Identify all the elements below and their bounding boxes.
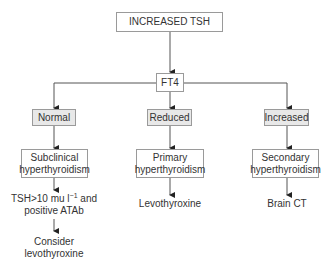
final-consider-levothyroxine: Consider levothyroxine xyxy=(0,236,108,260)
action-label: Brain CT xyxy=(267,198,306,209)
result-label-increased: Increased xyxy=(265,112,309,124)
diagnosis-line2: hyperthyroidism xyxy=(250,164,321,176)
diagnosis-line1: Secondary xyxy=(262,152,310,164)
diagnosis-line2: hyperthyroidism xyxy=(19,164,90,176)
action-tsh-criteria: TSH>10 mu l−1 and positive ATAb xyxy=(0,193,108,217)
final-line2: levothyroxine xyxy=(0,248,108,260)
result-box-reduced: Reduced xyxy=(147,109,192,126)
result-label-normal: Normal xyxy=(38,112,70,124)
connector-lines xyxy=(0,0,332,270)
ft4-label: FT4 xyxy=(161,77,179,89)
action-line1: TSH>10 mu l xyxy=(11,193,70,204)
action-brain-ct: Brain CT xyxy=(237,198,332,210)
action-line1-suffix: and xyxy=(78,193,97,204)
action-line2: positive ATAb xyxy=(0,205,108,217)
final-line1: Consider xyxy=(0,236,108,248)
action-superscript: −1 xyxy=(70,192,78,199)
root-label: INCREASED TSH xyxy=(129,16,210,28)
ft4-test-box: FT4 xyxy=(156,73,184,92)
diagnosis-box-secondary: Secondary hyperthyroidism xyxy=(252,149,319,178)
diagnosis-line1: Subclinical xyxy=(31,152,79,164)
result-box-increased: Increased xyxy=(264,109,309,126)
diagnosis-box-primary: Primary hyperthyroidism xyxy=(136,149,204,178)
diagnosis-line2: hyperthyroidism xyxy=(135,164,206,176)
result-label-reduced: Reduced xyxy=(149,112,189,124)
diagnosis-line1: Primary xyxy=(153,152,187,164)
action-label: Levothyroxine xyxy=(139,198,201,209)
diagnosis-box-subclinical: Subclinical hyperthyroidism xyxy=(21,149,88,178)
result-box-normal: Normal xyxy=(32,109,76,126)
root-box-increased-tsh: INCREASED TSH xyxy=(116,12,223,32)
action-levothyroxine: Levothyroxine xyxy=(120,198,220,210)
